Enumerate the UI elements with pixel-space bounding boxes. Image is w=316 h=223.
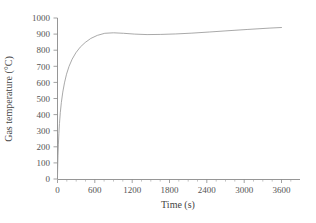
y-tick-label: 700: [37, 62, 51, 72]
y-tick-label: 0: [46, 174, 51, 184]
x-tick-label: 3000: [235, 185, 254, 195]
y-tick-label: 400: [37, 110, 51, 120]
x-tick-label: 3600: [273, 185, 292, 195]
y-tick-label: 1000: [32, 13, 51, 23]
y-tick-label: 200: [37, 142, 51, 152]
y-axis-title: Gas temperature (°C): [3, 56, 15, 142]
x-tick-label: 1200: [123, 185, 142, 195]
y-tick-label: 500: [37, 94, 51, 104]
y-tick-label: 900: [37, 29, 51, 39]
y-tick-label: 100: [37, 158, 51, 168]
x-tick-label: 2400: [198, 185, 217, 195]
y-tick-label: 800: [37, 45, 51, 55]
x-axis-title: Time (s): [161, 199, 195, 211]
x-tick-label: 0: [55, 185, 60, 195]
chart-figure: 1000 900 800 700 600 500 400 300 200 100…: [0, 0, 316, 223]
chart-plot-area: 1000 900 800 700 600 500 400 300 200 100…: [0, 0, 316, 223]
x-tick-label: 600: [88, 185, 102, 195]
y-tick-label: 300: [37, 126, 51, 136]
y-tick-label: 600: [37, 78, 51, 88]
x-tick-label: 1800: [161, 185, 180, 195]
